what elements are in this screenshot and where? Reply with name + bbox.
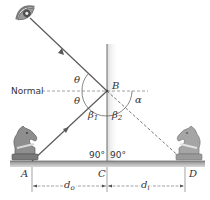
point-c-label: C bbox=[98, 169, 106, 179]
angle-right-90-label: 90° bbox=[110, 150, 126, 160]
alpha-label: α bbox=[135, 95, 142, 105]
eye-icon bbox=[13, 2, 37, 23]
normal-label: Normal bbox=[11, 86, 44, 96]
reflected-ray bbox=[30, 18, 107, 91]
knight-object-icon bbox=[12, 126, 38, 160]
mirror-shade bbox=[107, 44, 119, 162]
theta-lower-arc bbox=[82, 91, 88, 108]
theta-lower-label: θ bbox=[74, 96, 80, 106]
beta2-label: β2 bbox=[112, 110, 122, 123]
do-label: do bbox=[63, 180, 76, 193]
theta-upper-label: θ bbox=[74, 75, 80, 85]
di-label: di bbox=[140, 180, 151, 193]
theta-upper-arc bbox=[82, 74, 88, 91]
mirror-reflection-diagram: Normal B A C D θ θ β1 β2 α 90° 90° do di bbox=[0, 0, 210, 200]
beta1-label: β1 bbox=[88, 110, 98, 123]
point-b-label: B bbox=[112, 81, 119, 91]
point-b-dot bbox=[106, 90, 109, 93]
knight-image-icon bbox=[176, 126, 202, 160]
alpha-arc bbox=[125, 91, 132, 108]
point-d-label: D bbox=[189, 169, 197, 179]
angle-left-90-label: 90° bbox=[89, 150, 105, 160]
floor bbox=[10, 161, 205, 167]
point-a-label: A bbox=[21, 169, 28, 179]
incident-ray-arrow bbox=[63, 127, 69, 133]
